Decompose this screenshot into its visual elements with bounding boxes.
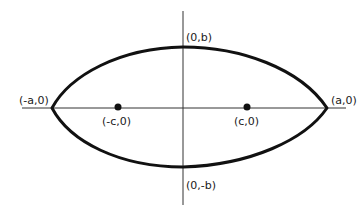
left-focus-point	[115, 104, 122, 111]
right-focus-label: (c,0)	[234, 115, 259, 128]
ellipse-curve	[52, 47, 327, 167]
bottom-vertex-label: (0,-b)	[186, 179, 216, 192]
top-vertex-label: (0,b)	[186, 31, 212, 44]
right-vertex-label: (a,0)	[331, 94, 357, 107]
left-focus-label: (-c,0)	[102, 115, 131, 128]
right-focus-point	[244, 104, 251, 111]
left-vertex-label: (-a,0)	[19, 94, 49, 107]
ellipse-diagram: (0,b) (0,-b) (-a,0) (a,0) (-c,0) (c,0)	[0, 0, 361, 212]
diagram-svg: (0,b) (0,-b) (-a,0) (a,0) (-c,0) (c,0)	[0, 0, 361, 212]
